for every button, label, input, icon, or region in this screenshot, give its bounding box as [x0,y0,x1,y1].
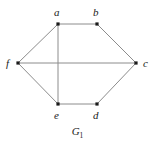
vertex-label-a: a [54,7,60,18]
edge-layer [18,24,136,104]
graph-edge [18,63,58,104]
graph-edge [18,24,58,63]
graph-vertex [134,61,137,64]
graph-vertex [16,61,19,64]
caption-subscript: 1 [80,131,84,140]
caption-base: G [72,125,80,137]
vertex-label-d: d [93,110,99,121]
vertex-label-c: c [143,58,148,69]
vertex-layer [16,22,137,105]
graph-vertex [56,102,59,105]
graph-figure: abcdef G1 [0,0,155,147]
vertex-label-f: f [6,58,9,69]
graph-edge [97,63,136,104]
figure-caption: G1 [0,125,155,142]
graph-edge [97,24,136,63]
graph-vertex [56,22,59,25]
graph-vertex [95,22,98,25]
vertex-label-b: b [93,7,99,18]
graph-vertex [95,102,98,105]
vertex-label-e: e [54,110,59,121]
